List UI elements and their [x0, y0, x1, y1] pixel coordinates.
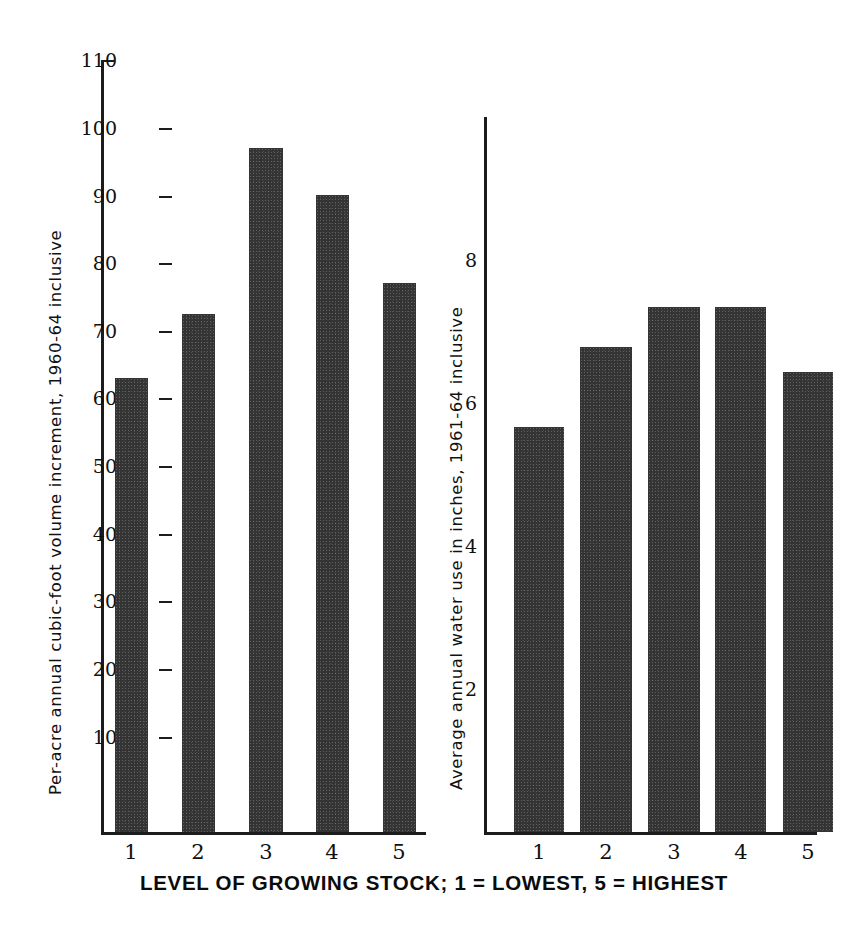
bar-water-level-3 — [648, 307, 700, 832]
bar-water-level-2 — [580, 347, 632, 832]
right-xtick-label-2: 2 — [591, 840, 621, 864]
right-ytick-label: 8 — [447, 249, 477, 271]
bar-water-level-5 — [783, 372, 833, 832]
right-y-axis-spine — [484, 117, 487, 835]
right-xtick-label-5: 5 — [793, 840, 823, 864]
chart-panel-right: Average annual water use in inches, 1961… — [0, 0, 868, 926]
right-xtick-label-4: 4 — [726, 840, 756, 864]
right-ytick-label: 2 — [447, 678, 477, 700]
bar-water-level-4 — [715, 307, 766, 832]
right-ytick-label: 4 — [447, 535, 477, 557]
right-xtick-label-3: 3 — [659, 840, 689, 864]
right-ytick-label: 6 — [447, 392, 477, 414]
right-xtick-label-1: 1 — [524, 840, 554, 864]
right-x-axis-baseline — [484, 832, 817, 835]
bar-water-level-1 — [514, 427, 564, 832]
figure-bar-charts: Per-acre annual cubic-foot volume increm… — [0, 0, 868, 926]
x-axis-caption: LEVEL OF GROWING STOCK; 1 = LOWEST, 5 = … — [0, 871, 868, 895]
